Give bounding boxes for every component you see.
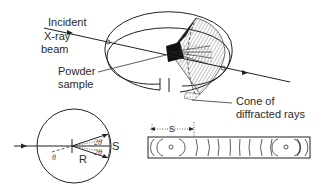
label-cone-of: Cone of [236,95,275,107]
label-2theta-upper: 2θ [94,138,102,147]
label-sample: sample [58,78,93,90]
diffraction-diagram: Incident X-ray beam Powder sample Cone o… [0,0,323,194]
label-powder: Powder [58,65,96,77]
label-2theta-lower: 2θ [94,148,102,157]
label-xray: X-ray [44,30,71,42]
label-diffracted-rays: diffracted rays [236,108,305,120]
geometry-circle: θ 2θ 2θ R S [14,109,119,183]
label-s-arc: S [112,140,119,152]
label-radius: R [79,153,87,165]
film-strip: S [148,122,310,158]
label-film-s: S [169,124,175,134]
label-theta: θ [52,153,56,162]
label-beam: beam [41,43,69,55]
cone-leader-line [192,100,232,103]
diffraction-cone [166,18,225,100]
label-incident: Incident [48,16,87,28]
